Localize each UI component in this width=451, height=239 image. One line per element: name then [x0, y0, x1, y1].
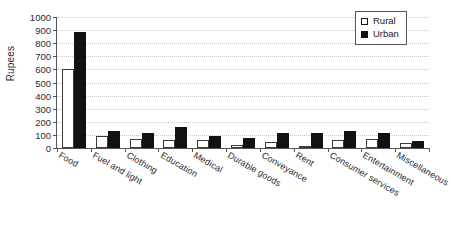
- bar-urban[interactable]: [175, 127, 187, 148]
- bar-urban[interactable]: [344, 131, 356, 148]
- bar-rural[interactable]: [130, 139, 142, 148]
- x-axis-category-labels: FoodFuel and lightClothingEducationMedic…: [56, 150, 428, 238]
- y-axis-tick-label: 800: [7, 38, 57, 49]
- bar-urban[interactable]: [311, 133, 323, 148]
- bar-rural[interactable]: [231, 145, 243, 148]
- bar-group: [91, 17, 125, 148]
- bar-urban[interactable]: [412, 141, 424, 148]
- bar-urban[interactable]: [108, 131, 120, 148]
- y-axis-tick-label: 300: [7, 103, 57, 114]
- bar-rural[interactable]: [366, 139, 378, 148]
- x-axis-label: Food: [57, 150, 80, 169]
- y-axis-tick-label: 200: [7, 116, 57, 127]
- legend-swatch-rural-icon: [361, 18, 368, 25]
- y-axis-tick-label: 900: [7, 25, 57, 36]
- y-axis-tick-label: 1000: [7, 12, 57, 23]
- bar-urban[interactable]: [277, 133, 289, 148]
- bar-urban[interactable]: [378, 133, 390, 148]
- x-axis-tick-mark: [429, 148, 430, 152]
- legend-label-urban: Urban: [373, 28, 399, 41]
- bar-urban[interactable]: [142, 133, 154, 148]
- bar-rural[interactable]: [299, 146, 311, 148]
- bar-rural[interactable]: [163, 140, 175, 149]
- bar-urban[interactable]: [243, 138, 255, 148]
- legend-label-rural: Rural: [373, 15, 396, 28]
- bar-urban[interactable]: [74, 32, 86, 148]
- y-axis-tick-label: 400: [7, 90, 57, 101]
- x-axis-label: Rent: [294, 150, 316, 168]
- bar-group: [125, 17, 159, 148]
- bar-group: [260, 17, 294, 148]
- bar-rural[interactable]: [62, 69, 74, 148]
- bar-urban[interactable]: [209, 136, 221, 148]
- bar-group: [158, 17, 192, 148]
- bar-rural[interactable]: [197, 140, 209, 148]
- bar-group: [192, 17, 226, 148]
- bar-rural[interactable]: [332, 140, 344, 148]
- bar-group: [57, 17, 91, 148]
- y-axis-tick-label: 100: [7, 129, 57, 140]
- bar-rural[interactable]: [96, 136, 108, 148]
- y-axis-tick-label: 500: [7, 77, 57, 88]
- chart-legend: Rural Urban: [355, 11, 407, 45]
- bar-rural[interactable]: [400, 143, 412, 148]
- y-axis-tick-label: 0: [7, 143, 57, 154]
- bar-rural[interactable]: [265, 142, 277, 148]
- legend-item-urban: Urban: [361, 28, 399, 41]
- legend-item-rural: Rural: [361, 15, 399, 28]
- bar-group: [294, 17, 328, 148]
- y-axis-tick-label: 700: [7, 51, 57, 62]
- legend-swatch-urban-icon: [361, 31, 368, 38]
- bar-group: [226, 17, 260, 148]
- y-axis-tick-label: 600: [7, 64, 57, 75]
